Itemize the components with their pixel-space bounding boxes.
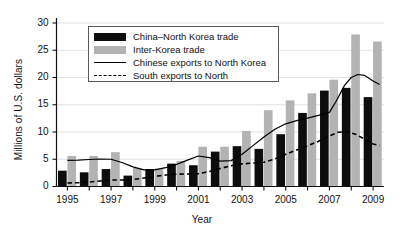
x-tick-label: 2001: [178, 194, 218, 205]
legend-entry-south-exports: South exports to North: [94, 69, 273, 82]
x-tick-label: 2005: [266, 194, 306, 205]
solid-line-icon: [94, 56, 126, 69]
bar: [373, 42, 382, 187]
bar: [124, 176, 133, 187]
legend-entry-chinese-exports: Chinese exports to North Korea: [94, 56, 273, 69]
bar: [264, 110, 273, 186]
legend-entry-inter-korea-trade: Inter-Korea trade: [94, 43, 273, 56]
bar: [351, 34, 360, 186]
legend-label: South exports to North: [133, 69, 228, 82]
legend-label: Inter-Korea trade: [133, 43, 205, 56]
y-tick-label: 20: [15, 71, 49, 82]
legend-entry-china-north-korea-trade: China–North Korea trade: [94, 30, 273, 43]
bar: [198, 147, 207, 187]
x-tick-label: 2009: [353, 194, 393, 205]
x-tick-label: 2003: [222, 194, 262, 205]
x-tick-label: 1997: [91, 194, 131, 205]
bar: [189, 165, 198, 186]
x-tick-label: 1999: [135, 194, 175, 205]
legend-label: Chinese exports to North Korea: [133, 56, 266, 69]
x-tick-label: 2007: [309, 194, 349, 205]
bar: [308, 93, 317, 186]
y-tick-label: 10: [15, 126, 49, 137]
chart-figure: Millions of U.S. dollars Year 0510152025…: [0, 0, 404, 240]
black-swatch-icon: [94, 30, 126, 43]
bar: [111, 152, 120, 186]
y-tick-label: 0: [15, 180, 49, 191]
x-axis-title: Year: [0, 214, 404, 225]
y-tick-label: 30: [15, 17, 49, 28]
bar: [102, 169, 111, 186]
bar: [286, 100, 295, 186]
bar: [58, 171, 67, 187]
bar: [80, 172, 89, 186]
bar: [242, 131, 251, 187]
gray-swatch-icon: [94, 43, 126, 56]
bar: [133, 168, 142, 187]
chart-legend: China–North Korea trade Inter-Korea trad…: [88, 26, 279, 82]
y-tick-label: 25: [15, 44, 49, 55]
bar: [155, 169, 164, 187]
bar: [342, 88, 351, 187]
x-tick-label: 1995: [47, 194, 87, 205]
bar: [233, 146, 242, 186]
dashed-line-icon: [94, 69, 126, 82]
bar: [255, 149, 264, 187]
bar: [329, 80, 338, 187]
bar: [276, 134, 285, 186]
y-tick-label: 5: [15, 153, 49, 164]
legend-label: China–North Korea trade: [133, 30, 239, 43]
y-tick-label: 15: [15, 98, 49, 109]
